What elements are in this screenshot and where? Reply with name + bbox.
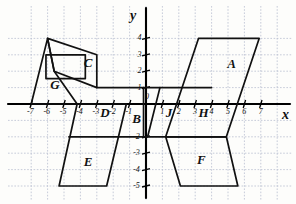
x-tick-label-0: 0 [145,92,149,101]
x-tick-label-6: 6 [242,107,246,116]
shape-label-e: E [84,154,93,170]
y-tick-label--2: -2 [133,132,140,141]
x-tick-label-1: 1 [160,107,164,116]
shape-label-c: C [84,55,93,71]
y-tick-label--3: -3 [133,148,140,157]
x-tick-label-7: 7 [259,107,263,116]
x-axis-label: x [282,107,289,123]
y-tick-label-2: 2 [138,66,142,75]
axis-point-label-h: H [199,105,209,121]
y-tick-label--4: -4 [133,165,140,174]
axis-point-label-j: J [166,105,173,121]
axis-point-label-d: D [100,105,109,121]
y-tick-label-1: 1 [138,83,142,92]
x-tick-label--3: -3 [93,107,100,116]
x-tick-label--4: -4 [76,107,83,116]
x-tick-label-5: 5 [226,107,230,116]
x-tick-label-4: 4 [210,107,214,116]
y-tick-label-4: 4 [138,33,142,42]
shape-label-b: B [132,111,141,127]
x-tick-label-3: 3 [193,107,197,116]
x-tick-label--6: -6 [43,107,50,116]
x-tick-label--7: -7 [27,107,34,116]
shape-parallelogram-e[interactable] [59,104,126,186]
x-tick-label--2: -2 [109,107,116,116]
graph-canvas [0,0,296,204]
shape-label-a: A [227,56,236,72]
x-tick-label-2: 2 [177,107,181,116]
shape-label-f: F [197,152,206,168]
shape-label-g: G [50,77,59,93]
y-tick-label-3: 3 [138,50,142,59]
coordinate-diagram: -7-6-5-4-3-2-1012345674321-2-3-4-5xyACGE… [0,0,296,204]
y-tick-label--5: -5 [133,181,140,190]
y-axis-label: y [130,8,136,24]
x-tick-label--5: -5 [60,107,67,116]
